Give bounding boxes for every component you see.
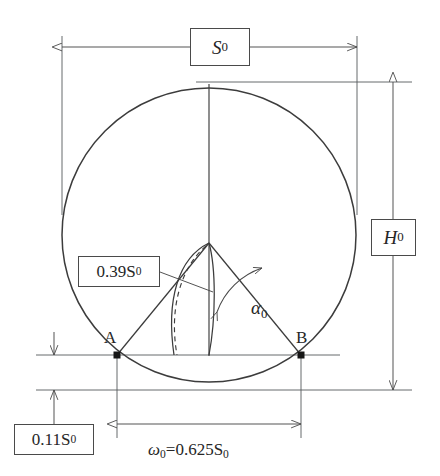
profile-curve-solid-left [172,243,209,355]
label-omega0-symbol: ω [148,440,160,459]
label-s0-subscript: 0 [222,41,228,54]
label-s0-symbol: S [212,38,222,57]
label-inflated-height-h0: H0 [371,219,416,256]
label-039s0-value: 0.39S [97,263,136,280]
label-point-b: B [296,329,307,346]
profile-curve-solid-right [209,243,214,355]
label-011s0-subscript: 0 [70,434,76,446]
label-omega0-equation: =0.625S [166,440,223,459]
label-h0-symbol: H [383,228,397,247]
profile-curve-dashed [174,246,206,355]
label-point-a: A [104,329,116,346]
point-b-marker [298,352,305,359]
parachute-geometry-figure: S0 H0 0.39S0 0.11S0 ω0=0.625S0 α0 A B [0,0,440,476]
label-011s0-value: 0.11S [32,431,71,448]
label-nominal-diameter-s0: S0 [190,28,250,66]
label-omega0-subscript-2: 0 [223,448,229,461]
label-h0-subscript: 0 [397,231,403,244]
canopy-construction [117,84,301,356]
point-a-marker [114,352,121,359]
leader-vent-dimension [160,272,213,292]
label-alpha0-symbol: α [251,297,261,318]
label-039s0-subscript: 0 [136,266,142,278]
leader-line-039s0 [160,272,213,292]
label-cone-angle-alpha0: α0 [251,298,267,321]
label-vent-offset-039s0: 0.39S0 [78,256,160,287]
label-alpha0-subscript: 0 [261,306,267,321]
label-skirt-offset-011s0: 0.11S0 [14,424,94,455]
label-projected-diameter-omega0: ω0=0.625S0 [148,441,229,461]
